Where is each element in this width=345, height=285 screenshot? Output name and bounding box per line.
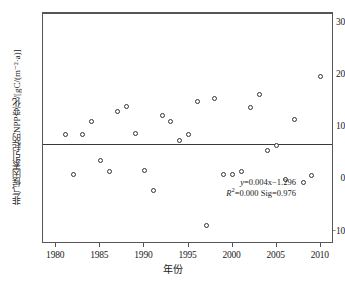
regression-annotation: y=0.004x−1.296 R2=0.000 Sig=0.976 (226, 177, 296, 198)
data-point-marker (195, 99, 200, 104)
data-point-marker (168, 119, 173, 124)
data-point-marker (309, 173, 314, 178)
trend-line (43, 144, 332, 145)
data-point-marker (265, 148, 270, 153)
data-point-marker (257, 92, 262, 97)
data-point-marker (239, 169, 244, 174)
x-axis-tick-label: 1985 (79, 250, 119, 261)
x-axis-tick-mark (188, 243, 189, 247)
x-axis-tick-label: 2000 (212, 250, 252, 261)
data-point-marker (89, 119, 94, 124)
x-axis-tick-mark (232, 243, 233, 247)
x-axis-tick-mark (99, 243, 100, 247)
data-point-marker (301, 180, 306, 185)
annotation-stats-line: R2=0.000 Sig=0.976 (226, 188, 296, 199)
x-axis-tick-label: 2005 (256, 250, 296, 261)
data-point-marker (115, 109, 120, 114)
data-point-marker (133, 131, 138, 136)
data-point-marker (124, 104, 129, 109)
data-point-marker (248, 105, 253, 110)
y-axis-title: 非气候因素引起的NPP变化/[gC/(m⁻²·a)] (9, 12, 25, 243)
x-axis-tick-mark (276, 243, 277, 247)
x-axis-tick-mark (320, 243, 321, 247)
scatter-chart-figure: 非气候因素引起的NPP变化/[gC/(m⁻²·a)] 3020100−10 y=… (0, 0, 345, 285)
data-point-marker (186, 132, 191, 137)
plot-area (43, 14, 332, 242)
data-point-marker (142, 168, 147, 173)
data-point-marker (204, 223, 209, 228)
data-point-marker (177, 138, 182, 143)
data-point-marker (71, 172, 76, 177)
annotation-stats-rest: =0.000 Sig=0.976 (235, 188, 296, 198)
data-point-marker (318, 74, 323, 79)
data-point-marker (151, 188, 156, 193)
x-axis-tick-mark (143, 243, 144, 247)
x-axis-tick-mark (55, 243, 56, 247)
x-axis-tick-label: 1980 (35, 250, 75, 261)
data-point-marker (107, 169, 112, 174)
x-axis-tick-label: 2010 (300, 250, 340, 261)
plot-frame: y=0.004x−1.296 R2=0.000 Sig=0.976 (42, 12, 333, 243)
x-axis-tick-label: 1995 (168, 250, 208, 261)
data-point-marker (160, 113, 165, 118)
x-axis-tick-label: 1990 (123, 250, 163, 261)
data-point-marker (274, 143, 279, 148)
data-point-marker (98, 158, 103, 163)
x-axis-title: 年份 (0, 264, 345, 276)
data-point-marker (221, 172, 226, 177)
data-point-marker (63, 132, 68, 137)
data-point-marker (292, 117, 297, 122)
data-point-marker (80, 132, 85, 137)
annotation-equation-line: y=0.004x−1.296 (226, 177, 296, 188)
annotation-equation-rest: =0.004x−1.296 (244, 177, 296, 187)
data-point-marker (212, 96, 217, 101)
